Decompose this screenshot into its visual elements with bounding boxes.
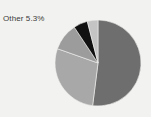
pie-slice-group xyxy=(55,20,141,106)
chart-figure: Other 5.3% xyxy=(0,0,151,117)
pie-slice-segment-1 xyxy=(93,20,141,106)
other-slice-label: Other 5.3% xyxy=(3,14,44,24)
